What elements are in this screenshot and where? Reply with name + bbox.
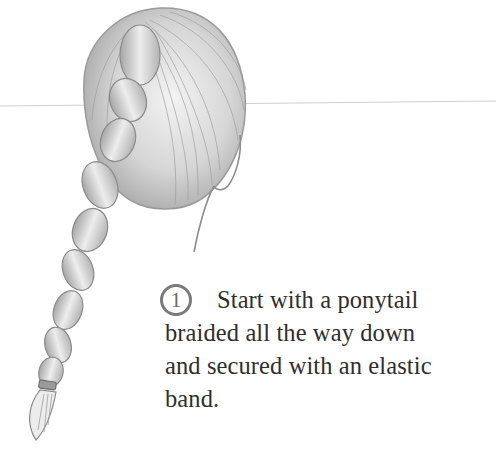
step-line-1: Start with a ponytail — [165, 283, 495, 316]
step-instruction: Start with a ponytail braided all the wa… — [165, 283, 495, 415]
step-line-3: and secured with an elastic — [165, 349, 495, 382]
step-line-2: braided all the way down — [165, 316, 495, 349]
step-line-4: band. — [165, 382, 495, 415]
elastic-band — [39, 380, 57, 390]
